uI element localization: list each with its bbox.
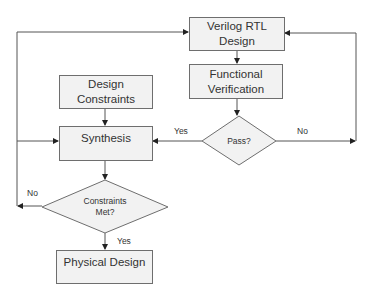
node-label: Verification <box>208 83 264 95</box>
pass-yes-label: Yes <box>174 126 188 136</box>
node-label: Verilog RTL <box>207 20 267 32</box>
node-label: Synthesis <box>81 131 131 146</box>
node-label: Constraints <box>84 196 127 206</box>
verilog-rtl-design-node: Verilog RTLDesign <box>189 17 285 51</box>
met-yes-label: Yes <box>117 236 131 246</box>
node-label: Met? <box>96 207 115 217</box>
synthesis-node: Synthesis <box>59 126 153 161</box>
node-label: Design <box>88 78 124 90</box>
met-no-label: No <box>27 188 38 198</box>
node-label: Physical Design <box>64 255 146 270</box>
pass-no-label: No <box>297 126 308 136</box>
design-constraints-node: DesignConstraints <box>59 75 153 109</box>
node-label: Constraints <box>77 93 135 105</box>
constraints-met-label: ConstraintsMet? <box>70 196 140 218</box>
node-label: Functional <box>209 68 262 80</box>
physical-design-node: Physical Design <box>56 250 153 284</box>
functional-verification-node: FunctionalVerification <box>189 64 283 99</box>
node-label: Design <box>219 35 255 47</box>
pass-label: Pass? <box>212 136 266 147</box>
